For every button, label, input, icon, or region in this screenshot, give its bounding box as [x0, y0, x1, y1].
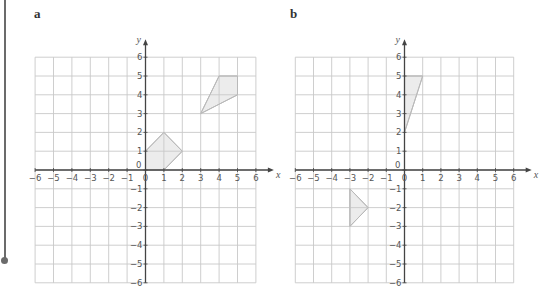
y-tick-label: −2	[389, 203, 402, 213]
y-axis-arrow-icon	[402, 39, 407, 45]
x-tick-label: 3	[456, 173, 461, 183]
x-tick-label: 2	[438, 173, 443, 183]
y-tick-label: 1	[396, 146, 401, 156]
x-tick-label: 4	[475, 173, 480, 183]
x-axis-label: x	[533, 169, 539, 180]
x-tick-label: −5	[307, 173, 320, 183]
y-tick-label: 4	[396, 90, 401, 100]
x-tick-label: 6	[511, 173, 516, 183]
x-tick-label: 0	[402, 173, 407, 183]
x-tick-label: −3	[344, 173, 357, 183]
x-tick-label: −6	[289, 173, 302, 183]
y-tick-label: 3	[396, 109, 401, 119]
y-tick-label: −5	[389, 259, 402, 269]
x-tick-label: −4	[325, 173, 338, 183]
y-tick-label: 5	[396, 71, 401, 81]
x-axis-arrow-icon	[526, 168, 532, 173]
y-tick-label: 2	[396, 127, 401, 137]
y-tick-label: −4	[389, 240, 402, 250]
y-tick-label: −1	[389, 184, 402, 194]
x-tick-label: −1	[380, 173, 393, 183]
y-axis-label: y	[395, 34, 401, 45]
y-tick-label: −6	[389, 278, 402, 288]
y-tick-label: 6	[396, 52, 401, 62]
x-tick-label: 1	[420, 173, 425, 183]
y-tick-label: 0	[395, 160, 400, 170]
y-tick-label: −3	[389, 221, 402, 231]
coordinate-grid-b: −6−5−4−3−2−10123456−6−5−4−3−2−10123456xy	[0, 0, 550, 301]
x-tick-label: 5	[493, 173, 498, 183]
x-tick-label: −2	[362, 173, 375, 183]
